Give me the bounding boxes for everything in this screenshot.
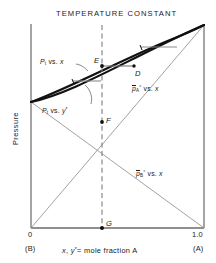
curve-label-pa-degree: °	[139, 85, 141, 90]
curve-label-pt-vs-x-sub: t	[45, 61, 46, 66]
curve-label-pt-vs-x-vs: vs.	[48, 58, 60, 65]
curve-label-pa-vs-x: pA° vs. x	[132, 86, 159, 94]
curve-label-pt-vs-x-var: x	[60, 58, 64, 65]
curve-label-pa-symbol: p	[132, 85, 136, 92]
point-marker-f	[100, 120, 104, 124]
partial-pressure-b-line	[31, 102, 204, 228]
point-label-g: G	[106, 220, 112, 228]
curve-label-pt-vs-x: Pt vs. x	[40, 59, 64, 67]
partial-pressure-a-line	[31, 25, 204, 228]
curve-label-pa-var: x	[155, 85, 159, 92]
x-axis-label-rest: = mole fraction A	[77, 246, 137, 255]
x-tick-left-component: (B)	[25, 245, 35, 252]
pressure-composition-diagram: TEMPERATURE CONSTANT Pressure x, y*= mol…	[0, 0, 216, 263]
leader-pt-vs-y	[85, 85, 92, 104]
point-marker-g	[100, 226, 104, 230]
curve-label-pt-vs-y-sub: t	[47, 110, 48, 115]
curve-label-pa-overbar-group: p	[132, 86, 136, 93]
point-label-d: D	[135, 70, 140, 78]
curve-label-pb-overbar-group: p	[136, 171, 140, 178]
curve-label-pt-vs-y-vs: vs.	[50, 107, 62, 114]
curve-label-pb-var: x	[159, 170, 163, 177]
curve-label-pt-vs-y: Pt vs. y*	[42, 108, 68, 116]
overbar-a	[132, 85, 136, 86]
chart-title: TEMPERATURE CONSTANT	[56, 10, 177, 18]
point-label-f: F	[106, 117, 111, 125]
y-axis-label: Pressure	[12, 112, 19, 145]
curve-label-pb-vs: vs.	[148, 170, 160, 177]
point-label-e: E	[94, 57, 99, 65]
curve-label-pb-degree: °	[143, 170, 145, 175]
x-tick-right-value: 1.0	[192, 231, 203, 238]
point-marker-e	[100, 64, 104, 68]
x-tick-right-component: (A)	[193, 245, 203, 252]
leader-pt-vs-x	[76, 64, 88, 71]
curve-label-pa-vs: vs.	[144, 85, 156, 92]
curve-label-pb-symbol: p	[136, 170, 140, 177]
curve-label-pb-vs-x: pB° vs. x	[136, 171, 163, 179]
x-tick-left-value: 0	[28, 231, 32, 238]
x-axis-label: x, y*= mole fraction A	[62, 247, 137, 254]
point-marker-d	[132, 64, 135, 67]
curve-label-pt-vs-y-star: *	[66, 107, 68, 112]
overbar-b	[136, 170, 140, 171]
